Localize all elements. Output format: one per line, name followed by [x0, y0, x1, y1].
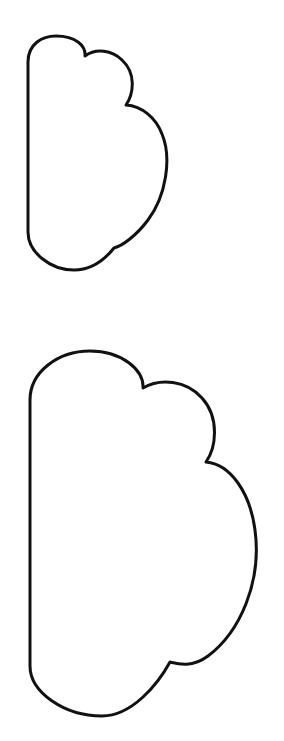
drawing-canvas [0, 0, 284, 741]
cloud-shapes-svg [0, 0, 284, 741]
